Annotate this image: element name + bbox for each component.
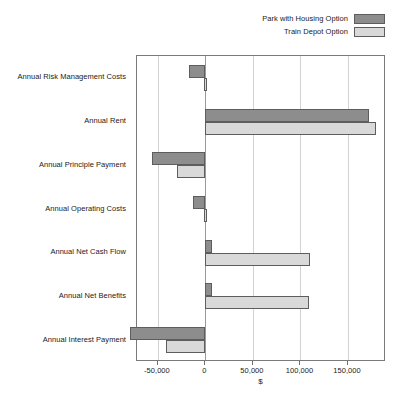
category-label: Annual Principle Payment xyxy=(39,160,126,169)
bar-series-2 xyxy=(205,296,309,309)
legend-swatch-series-1 xyxy=(354,14,385,24)
tick-label: -50,000 xyxy=(144,366,170,375)
tick-mark xyxy=(252,361,253,365)
category-axis-labels: Annual Risk Management CostsAnnual RentA… xyxy=(0,55,131,361)
bar-series-1 xyxy=(205,240,212,253)
plot-inner xyxy=(137,56,384,360)
legend-item-train-depot-option: Train Depot Option xyxy=(284,26,385,37)
bar-series-2 xyxy=(177,165,206,178)
legend-item-park-with-housing-option: Park with Housing Option xyxy=(262,13,385,24)
bar-series-1 xyxy=(189,65,205,78)
category-label: Annual Operating Costs xyxy=(45,204,126,213)
tick-mark xyxy=(299,361,300,365)
legend-swatch-series-2 xyxy=(354,27,385,37)
gridline xyxy=(348,56,349,360)
tick-label: 100,000 xyxy=(286,366,313,375)
gridline xyxy=(158,56,159,360)
bar-series-2 xyxy=(166,340,206,353)
category-label: Annual Rent xyxy=(84,116,126,125)
bar-series-1 xyxy=(205,109,368,122)
bar-series-2 xyxy=(205,253,310,266)
category-label: Annual Net Cash Flow xyxy=(50,247,126,256)
bar-series-2 xyxy=(205,122,376,135)
tick-label: 150,000 xyxy=(333,366,360,375)
gridline xyxy=(300,56,301,360)
legend-label: Train Depot Option xyxy=(284,27,348,36)
plot-area xyxy=(136,55,385,361)
category-label: Annual Net Benefits xyxy=(59,291,126,300)
category-label: Annual Interest Payment xyxy=(43,335,126,344)
tick-label: 0 xyxy=(202,366,206,375)
tick-mark xyxy=(157,361,158,365)
bar-chart: Park with Housing Option Train Depot Opt… xyxy=(0,0,406,415)
bar-series-2 xyxy=(204,209,207,222)
category-label: Annual Risk Management Costs xyxy=(17,72,126,81)
bar-series-1 xyxy=(193,196,205,209)
chart-legend: Park with Housing Option Train Depot Opt… xyxy=(262,13,385,37)
tick-mark xyxy=(204,361,205,365)
bar-series-2 xyxy=(204,78,207,91)
bar-series-1 xyxy=(130,327,205,340)
x-axis-title: $ xyxy=(136,377,385,387)
bar-series-1 xyxy=(152,152,205,165)
tick-mark xyxy=(347,361,348,365)
tick-label: 50,000 xyxy=(240,366,263,375)
gridline xyxy=(253,56,254,360)
zero-line xyxy=(205,56,206,360)
bar-series-1 xyxy=(205,283,212,296)
legend-label: Park with Housing Option xyxy=(262,14,348,23)
